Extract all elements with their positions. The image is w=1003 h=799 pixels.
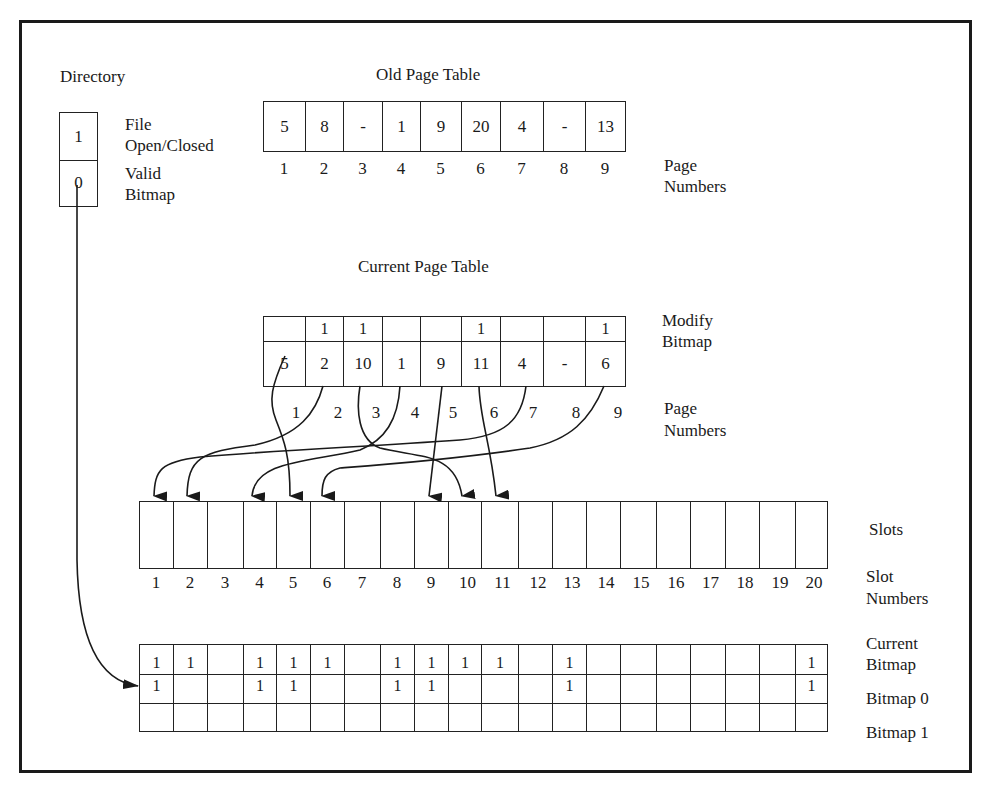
arrow-page6-to-slot11 bbox=[479, 386, 496, 496]
arrow-page9-to-slot6 bbox=[322, 386, 604, 496]
arrow-page7-to-slot1 bbox=[154, 386, 526, 496]
arrow-page4-to-slot4 bbox=[252, 386, 400, 496]
mapping-arrows bbox=[0, 0, 1003, 799]
arrow-directory-to-bitmap0 bbox=[77, 185, 138, 686]
arrow-page2-to-slot2 bbox=[187, 386, 323, 496]
arrow-page1-to-slot5 bbox=[272, 356, 290, 496]
